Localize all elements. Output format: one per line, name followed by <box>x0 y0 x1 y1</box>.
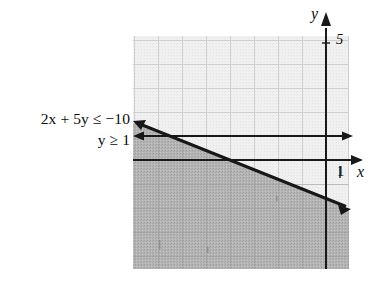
x-axis-label: x <box>357 163 364 181</box>
x-axis-tick-label-1: 1 <box>337 163 344 180</box>
y-axis-tick-label-5: 5 <box>336 31 343 48</box>
inequality-label-group: 2x + 5y ≤ −10 y ≥ 1 <box>6 108 130 151</box>
y-axis-label: y <box>311 5 318 23</box>
inequality-graph-figure: 2x + 5y ≤ −10 y ≥ 1 y x 5 1 <box>0 0 379 281</box>
inequality-label-line-2: y ≥ 1 <box>6 129 130 150</box>
inequality-label-line-1: 2x + 5y ≤ −10 <box>6 108 130 129</box>
